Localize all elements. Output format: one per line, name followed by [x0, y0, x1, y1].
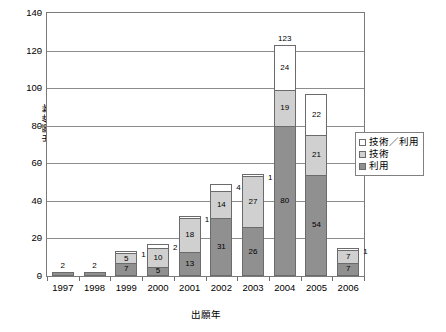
- stacked-bar[interactable]: 11813: [179, 216, 201, 276]
- y-tick-mark: [38, 13, 42, 14]
- bar-segment[interactable]: 22: [305, 94, 327, 135]
- x-tick-label: 1998: [79, 283, 111, 293]
- bar-total-label: 2: [61, 262, 65, 270]
- y-tick-label: 40: [2, 196, 42, 206]
- y-tick-mark: [38, 88, 42, 89]
- bar-column[interactable]: 2105: [142, 13, 174, 276]
- bar-segment[interactable]: 18: [179, 218, 201, 252]
- bar-segment[interactable]: 5: [115, 253, 137, 262]
- legend-item[interactable]: 利用: [359, 160, 419, 172]
- bar-segment[interactable]: 10: [147, 248, 169, 267]
- x-tick-mark: [269, 277, 270, 281]
- bar-column[interactable]: 2: [47, 13, 79, 276]
- bar-segment[interactable]: 7: [115, 263, 137, 276]
- bar-segment[interactable]: 7: [337, 263, 359, 276]
- bar-column[interactable]: 222154: [301, 13, 333, 276]
- x-tick-mark: [206, 277, 207, 281]
- bar-series-container: 2215721051181341431127261232419802221541…: [47, 13, 364, 276]
- x-tick-mark: [364, 277, 365, 281]
- bar-segment-value: 21: [312, 151, 321, 159]
- stacked-bar[interactable]: [84, 272, 106, 276]
- bar-segment-value: 10: [154, 254, 163, 262]
- legend-item[interactable]: 技術: [359, 148, 419, 160]
- y-tick-label: 0: [2, 271, 42, 281]
- y-tick-mark: [38, 238, 42, 239]
- legend-swatch-icon: [359, 163, 366, 170]
- bar-segment[interactable]: 26: [242, 227, 264, 276]
- stacked-bar[interactable]: 222154: [305, 94, 327, 276]
- x-tick-mark: [79, 277, 80, 281]
- bar-column[interactable]: 11813: [174, 13, 206, 276]
- bar-segment-value: 24: [280, 64, 289, 72]
- legend-label: 技術: [369, 148, 389, 160]
- x-tick-label: 2003: [237, 283, 269, 293]
- bar-column[interactable]: 2: [79, 13, 111, 276]
- bar-segment-value: 27: [249, 198, 258, 206]
- chart-legend: 技術／利用技術利用: [355, 132, 424, 176]
- stacked-bar[interactable]: 241980: [274, 45, 296, 276]
- x-tick-mark: [332, 277, 333, 281]
- bar-segment-value: 54: [312, 221, 321, 229]
- bar-segment[interactable]: 24: [274, 45, 296, 90]
- bar-segment-value: 7: [346, 253, 350, 261]
- legend-swatch-icon: [359, 139, 366, 146]
- stacked-bar[interactable]: 177: [337, 248, 359, 276]
- x-tick-label: 2001: [174, 283, 206, 293]
- bar-column[interactable]: 157: [110, 13, 142, 276]
- bar-column[interactable]: 123241980: [269, 13, 301, 276]
- bar-segment[interactable]: 14: [210, 191, 232, 217]
- bar-segment[interactable]: 19: [274, 90, 296, 126]
- y-tick-mark: [38, 201, 42, 202]
- bar-column[interactable]: 41431: [206, 13, 238, 276]
- y-tick-mark: [38, 126, 42, 127]
- y-tick-label: 20: [2, 233, 42, 243]
- x-tick-label: 2002: [206, 283, 238, 293]
- bar-segment-value: 5: [124, 255, 128, 263]
- bar-segment[interactable]: 4: [210, 184, 232, 192]
- bar-segment[interactable]: 54: [305, 175, 327, 276]
- bar-segment-outside-value: 1: [363, 248, 367, 256]
- x-axis-title: 出願年: [46, 307, 366, 321]
- bar-segment[interactable]: 27: [242, 176, 264, 227]
- bar-segment-value: 18: [185, 231, 194, 239]
- stacked-bar[interactable]: 157: [115, 251, 137, 276]
- x-tick-mark: [237, 277, 238, 281]
- legend-item[interactable]: 技術／利用: [359, 136, 419, 148]
- x-tick-mark: [110, 277, 111, 281]
- bar-segment[interactable]: 80: [274, 126, 296, 276]
- y-tick-label: 80: [2, 121, 42, 131]
- legend-label: 利用: [369, 160, 389, 172]
- legend-swatch-icon: [359, 151, 366, 158]
- bar-segment[interactable]: 7: [337, 250, 359, 263]
- bar-segment-value: 26: [249, 248, 258, 256]
- y-axis-tick-labels: 020406080100120140: [0, 12, 42, 277]
- y-tick-label: 60: [2, 158, 42, 168]
- bar-total-label: 2: [92, 262, 96, 270]
- bar-segment-value: 19: [280, 104, 289, 112]
- x-tick-label: 1999: [110, 283, 142, 293]
- bar-segment[interactable]: 5: [147, 267, 169, 276]
- bar-segment[interactable]: 21: [305, 135, 327, 174]
- bar-segment-value: 5: [156, 267, 160, 275]
- bar-column[interactable]: 12726: [237, 13, 269, 276]
- stacked-bar[interactable]: 12726: [242, 174, 264, 276]
- x-tick-label: 1997: [47, 283, 79, 293]
- bar-segment[interactable]: 31: [210, 218, 232, 276]
- bar-segment-value: 31: [217, 243, 226, 251]
- bar-total-label: 123: [278, 35, 291, 43]
- bar-segment-value: 7: [124, 265, 128, 273]
- stacked-bar[interactable]: [52, 272, 74, 276]
- bar-segment[interactable]: [52, 272, 74, 276]
- x-axis-tick-labels: 1997199819992000200120022003200420052006: [47, 283, 364, 293]
- stacked-bar[interactable]: 41431: [210, 184, 232, 276]
- x-tick-label: 2005: [301, 283, 333, 293]
- stacked-bar[interactable]: 2105: [147, 244, 169, 276]
- legend-label: 技術／利用: [369, 136, 419, 148]
- bar-segment[interactable]: 13: [179, 252, 201, 276]
- y-tick-mark: [38, 276, 42, 277]
- y-tick-label: 100: [2, 83, 42, 93]
- x-tick-label: 2000: [142, 283, 174, 293]
- bar-segment[interactable]: [84, 272, 106, 276]
- bar-segment-value: 7: [346, 265, 350, 273]
- stacked-bar-chart: 出願件数 020406080100120140 2215721051181341…: [0, 0, 446, 332]
